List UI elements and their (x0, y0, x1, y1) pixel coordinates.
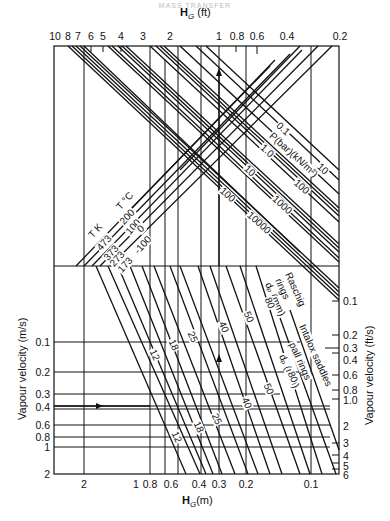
right-tick: 0.3 (343, 342, 358, 354)
bottom-tick: 0.4 (192, 478, 207, 490)
arrow-right-icon (96, 403, 103, 409)
bottom-tick: 2 (81, 478, 87, 490)
arrow-up-icon (216, 354, 222, 362)
right-tick: 0.1 (343, 295, 358, 307)
left-tick: 2 (20, 468, 50, 480)
right-tick: 1.0 (343, 394, 358, 406)
bottom-tick: 0.2 (239, 478, 254, 490)
right-tick: 0.2 (343, 329, 358, 341)
left-tick: 1 (20, 441, 50, 453)
nomogram-plot (0, 0, 390, 521)
bottom-tick: 0.8 (143, 478, 158, 490)
bottom-tick: 0.6 (164, 478, 179, 490)
bottom-axis-unit: (m) (196, 494, 213, 506)
right-tick: 2 (343, 420, 349, 432)
bottom-tick: 0.3 (212, 478, 227, 490)
right-axis-title: Vapour velocity (ft/s) (363, 326, 375, 425)
bottom-tick: 1 (133, 478, 139, 490)
bottom-axis-title: HG(m) (182, 494, 213, 509)
left-axis-title: Vapour velocity (m/s) (16, 318, 28, 421)
left-tick: 0.6 (20, 419, 50, 431)
right-tick: 0.6 (343, 369, 358, 381)
bottom-tick: 0.1 (304, 478, 319, 490)
right-tick: 3 (343, 437, 349, 449)
right-tick: 6 (343, 469, 349, 481)
right-tick: 0.4 (343, 354, 358, 366)
